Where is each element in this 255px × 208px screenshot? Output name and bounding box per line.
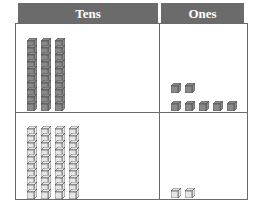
- ones-cube: [171, 79, 180, 88]
- ones-cube: [213, 97, 222, 106]
- tens-rod: [55, 34, 65, 107]
- tens-rod: [55, 122, 65, 195]
- ones-header: Ones: [161, 3, 244, 24]
- ones-cube: [185, 97, 194, 106]
- tens-rod: [41, 34, 51, 107]
- tens-rod: [27, 34, 37, 107]
- ones-cube: [171, 184, 180, 193]
- tens-rod: [27, 122, 37, 195]
- tens-header: Tens: [18, 3, 158, 24]
- ones-cube: [185, 184, 194, 193]
- ones-cube: [199, 97, 208, 106]
- tens-rod: [41, 122, 51, 195]
- ones-cube: [171, 97, 180, 106]
- tens-rod: [69, 122, 79, 195]
- ones-cube: [227, 97, 236, 106]
- ones-cube: [185, 79, 194, 88]
